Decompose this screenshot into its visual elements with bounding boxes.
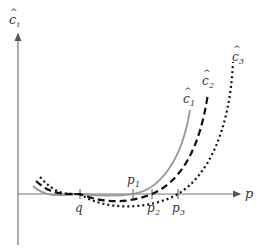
x-axis-label: p: [245, 186, 254, 201]
svg-text:2: 2: [154, 208, 160, 217]
svg-text:2: 2: [208, 81, 214, 90]
svg-text:3: 3: [180, 208, 185, 217]
diagram-canvas: c ^ i p q p 1 p 2 p 3 c ^ 1 c ^ 2 c ^ 3: [0, 0, 263, 249]
svg-text:^: ^: [203, 68, 211, 78]
svg-text:^: ^: [10, 7, 18, 17]
svg-text:p: p: [127, 173, 135, 187]
svg-text:1: 1: [135, 180, 140, 189]
y-axis-label: c ^ i: [9, 7, 20, 29]
svg-text:^: ^: [184, 86, 192, 96]
curve-c2: [36, 93, 208, 201]
tick-label-p2: p 2: [147, 201, 160, 217]
curve-label-c2: c ^ 2: [202, 68, 214, 90]
tick-label-p1: p 1: [127, 173, 140, 189]
svg-text:p: p: [147, 201, 155, 215]
svg-text:i: i: [17, 20, 20, 29]
curve-label-c1: c ^ 1: [183, 86, 195, 108]
tick-label-p3: p 3: [172, 201, 185, 217]
tick-label-q: q: [75, 201, 83, 215]
svg-text:1: 1: [190, 99, 195, 108]
svg-text:q: q: [75, 201, 83, 215]
curve-c1: [33, 110, 190, 196]
svg-text:3: 3: [239, 57, 244, 66]
svg-text:^: ^: [233, 44, 241, 54]
curve-label-c3: c ^ 3: [232, 44, 244, 66]
svg-text:p: p: [172, 201, 180, 215]
